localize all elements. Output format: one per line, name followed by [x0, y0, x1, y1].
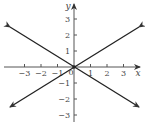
x-tick-label: 2	[104, 69, 109, 78]
y-tick-label: −3	[58, 111, 70, 120]
y-tick-label: 3	[65, 15, 70, 24]
x-tick-label: −2	[35, 69, 47, 78]
y-tick-label: 2	[65, 31, 70, 40]
x-tick-label: 3	[121, 69, 126, 78]
origin-point	[72, 65, 76, 69]
coordinate-plane: −3 −2 −1 1 2 3 3 2 1 −1 −2 −3 0 x y	[0, 0, 145, 125]
x-tick-label: −3	[19, 69, 31, 78]
y-tick-label: 1	[65, 47, 70, 56]
x-axis-label: x	[135, 68, 140, 78]
x-tick-label: −1	[52, 69, 64, 78]
y-tick-label: −1	[58, 79, 70, 88]
y-axis-label: y	[64, 1, 71, 11]
y-tick-label: −2	[58, 95, 70, 104]
